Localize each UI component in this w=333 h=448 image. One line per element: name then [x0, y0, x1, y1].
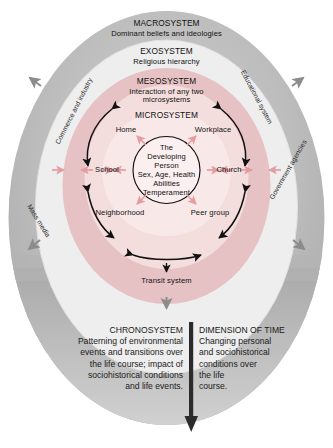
micro-node-peer-group: Peer group — [178, 209, 242, 218]
mesosystem-title: MESOSYSTEM — [0, 77, 333, 86]
micro-node-workplace: Workplace — [180, 126, 246, 135]
dimension-of-time-line-1: Changing personal — [199, 336, 327, 347]
center-line-5: Abilities — [120, 179, 213, 188]
dimension-of-time-line-2: and sociohistorical — [199, 347, 327, 358]
chronosystem-line-3: the life course; impact of — [28, 359, 183, 370]
chronosystem-line-2: events and transitions over — [28, 347, 183, 358]
chronosystem-line-1: Patterning of environmental — [28, 336, 183, 347]
exo-label-transit-system: Transit system — [0, 277, 333, 286]
macrosystem-subtitle: Dominant beliefs and ideologies — [0, 30, 333, 39]
dimension-of-time-block: DIMENSION OF TIME Changing personal and … — [199, 325, 327, 392]
mesosystem-subtitle-line2: microsystems — [0, 96, 333, 105]
chronosystem-heading: CHRONOSYSTEM — [28, 325, 183, 336]
chronosystem-line-5: and life events. — [28, 381, 183, 392]
dimension-of-time-line-4: the life — [199, 370, 327, 381]
microsystem-title: MICROSYSTEM — [0, 111, 333, 120]
micro-node-home: Home — [96, 126, 156, 135]
dimension-of-time-line-3: conditions over — [199, 359, 327, 370]
figure-canvas: MACROSYSTEM Dominant beliefs and ideolog… — [0, 0, 333, 448]
exosystem-title: EXOSYSTEM — [0, 47, 333, 56]
dimension-of-time-line-5: course. — [199, 381, 327, 392]
dimension-of-time-heading: DIMENSION OF TIME — [199, 325, 327, 336]
center-line-2: Developing — [120, 152, 213, 161]
center-line-1: The — [120, 143, 213, 152]
center-line-3: Person — [120, 161, 213, 170]
chronosystem-line-4: sociohistorical conditions — [28, 370, 183, 381]
chronosystem-block: CHRONOSYSTEM Patterning of environmental… — [28, 325, 183, 392]
exosystem-subtitle: Religious hierarchy — [0, 58, 333, 67]
micro-node-neighborhood: Neighborhood — [84, 209, 156, 218]
center-line-4: Sex, Age, Health — [118, 170, 215, 179]
macrosystem-title: MACROSYSTEM — [0, 19, 333, 28]
center-line-6: Temperament — [118, 188, 215, 197]
